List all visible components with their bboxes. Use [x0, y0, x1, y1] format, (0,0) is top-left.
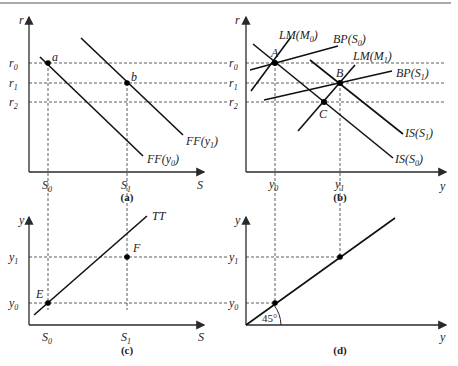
- point-F: [124, 254, 130, 260]
- tick-r2: r2: [229, 95, 238, 111]
- panel-d: y y y1 y0 45° (d): [228, 213, 446, 357]
- point-B: [337, 80, 343, 86]
- y-axis-label: r: [19, 13, 24, 27]
- ff-y0-label: FF(y0): [146, 152, 179, 168]
- panel-a: r S r0 r1 r2 S0 S1 a b FF(y1) FF(y0) (a): [9, 13, 229, 310]
- point-a-label: a: [52, 50, 58, 64]
- tt-label: TT: [152, 209, 167, 223]
- tick-s0: S0: [42, 330, 52, 346]
- is-s0-label: IS(S0): [394, 152, 423, 168]
- x-axis-label: y: [439, 179, 446, 193]
- bp-s1-label: BP(S1): [396, 66, 429, 82]
- x-axis-label: S: [197, 178, 203, 192]
- bp-s0-label: BP(S0): [333, 32, 366, 48]
- angle-label: 45°: [262, 312, 277, 324]
- tick-y0: y0: [268, 177, 278, 193]
- x-axis-label: S: [198, 330, 204, 344]
- point-y1: [337, 254, 343, 260]
- panel-c: y S y1 y0 S0 S1 E F TT (c): [8, 209, 229, 357]
- point-y0: [272, 300, 278, 306]
- x-axis-label: y: [439, 330, 446, 344]
- point-C: [321, 99, 327, 105]
- point-B-label: B: [336, 66, 344, 80]
- tick-r0: r0: [229, 56, 238, 72]
- tick-s0: S0: [42, 178, 52, 194]
- tick-r1: r1: [229, 76, 238, 92]
- point-A-label: A: [270, 46, 279, 60]
- tt-curve: [34, 216, 147, 315]
- caption-c: (c): [121, 344, 134, 357]
- ff-y1-label: FF(y1): [185, 134, 218, 150]
- ff-y0-curve: [40, 57, 143, 156]
- point-A: [272, 60, 278, 66]
- tick-y1: y1: [8, 250, 18, 266]
- caption-a: (a): [121, 191, 134, 204]
- y-axis-label: y: [18, 213, 25, 227]
- point-C-label: C: [319, 107, 328, 121]
- bp-s0-curve: [250, 46, 338, 70]
- point-b-label: b: [131, 70, 137, 84]
- tick-y0: y0: [228, 296, 238, 312]
- point-F-label: F: [132, 241, 141, 255]
- tick-r1: r1: [9, 76, 18, 92]
- point-E: [45, 300, 51, 306]
- is-s1-label: IS(S1): [404, 126, 433, 142]
- point-a: [45, 60, 51, 66]
- point-E-label: E: [35, 287, 44, 301]
- y-axis-label: y: [234, 213, 241, 227]
- point-b: [124, 80, 130, 86]
- four-panel-diagram: r S r0 r1 r2 S0 S1 a b FF(y1) FF(y0) (a): [0, 0, 458, 366]
- caption-d: (d): [333, 344, 347, 357]
- forty-five-degree-line: [246, 218, 395, 325]
- tick-y1: y1: [228, 250, 238, 266]
- caption-b: (b): [333, 191, 347, 204]
- lm-m1-label: LM(M1): [352, 49, 392, 65]
- tick-r0: r0: [9, 56, 18, 72]
- tick-r2: r2: [9, 95, 18, 111]
- ff-y1-curve: [81, 38, 183, 135]
- y-axis-label: r: [235, 13, 240, 27]
- lm-m0-label: LM(M0): [278, 28, 318, 44]
- tick-y0: y0: [8, 296, 18, 312]
